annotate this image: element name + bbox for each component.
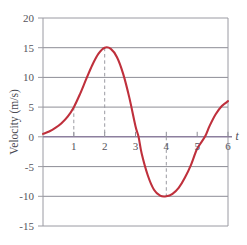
x-tick-label-5: 5 xyxy=(194,140,200,152)
y-tick-label-20: 20 xyxy=(23,12,35,24)
x-tick-label-3: 3 xyxy=(133,140,139,152)
y-tick-labels: 20 15 10 5 0 -5 -10 -15 xyxy=(19,12,34,232)
y-tick-label-neg10: -10 xyxy=(19,190,34,202)
y-tick-label-5: 5 xyxy=(29,101,35,113)
y-axis-ticks xyxy=(38,18,43,226)
y-axis-title: Velocity (m/s) xyxy=(8,89,21,155)
velocity-time-chart: 20 15 10 5 0 -5 -10 -15 1 2 3 4 5 6 t Ve… xyxy=(0,0,247,245)
y-tick-label-0: 0 xyxy=(29,131,35,143)
y-tick-label-neg15: -15 xyxy=(19,220,34,232)
x-tick-label-2: 2 xyxy=(102,140,108,152)
y-tick-label-10: 10 xyxy=(23,71,35,83)
x-tick-label-1: 1 xyxy=(71,140,77,152)
y-tick-label-15: 15 xyxy=(23,42,35,54)
x-tick-label-4: 4 xyxy=(164,140,170,152)
x-axis-title: t xyxy=(235,130,239,142)
x-tick-label-6: 6 xyxy=(225,140,231,152)
chart-canvas: 20 15 10 5 0 -5 -10 -15 1 2 3 4 5 6 t Ve… xyxy=(0,0,247,245)
y-tick-label-neg5: -5 xyxy=(25,161,35,173)
